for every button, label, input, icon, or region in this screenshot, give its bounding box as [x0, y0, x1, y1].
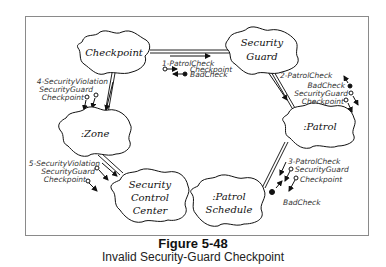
msg3-arg3: BadCheck [283, 198, 321, 207]
link-checkpoint-guard [150, 50, 235, 53]
msg1-arg2: BadCheck [190, 70, 228, 79]
label-zone: :Zone [81, 128, 110, 139]
message-3: 3-PatrolCheck SecurityGuard Checkpoint B… [283, 157, 349, 207]
msg3-arg2: Checkpoint [300, 175, 343, 184]
object-patrol: :Patrol [283, 103, 356, 148]
figure-number: Figure 5-48 [0, 236, 386, 251]
object-checkpoint: Checkpoint [77, 31, 149, 74]
figure-caption: Invalid Security-Guard Checkpoint [0, 250, 386, 264]
collaboration-diagram: Checkpoint Security Guard :Zone :Patrol … [0, 0, 386, 267]
object-zone: :Zone [59, 107, 131, 156]
label-patrol-schedule-1: :Patrol [212, 191, 246, 202]
msg2-arg3: Checkpoint [302, 97, 345, 106]
msg4-arg2: Checkpoint [42, 93, 85, 102]
label-scc-1: Security [129, 179, 172, 190]
label-scc-2: Control [131, 192, 169, 203]
link-zone-scc [98, 153, 123, 175]
object-patrol-schedule: :Patrol Schedule [191, 175, 265, 226]
msg5-arg2: Checkpoint [44, 175, 87, 184]
label-checkpoint: Checkpoint [85, 47, 144, 58]
msg2-name: 2-PatrolCheck [280, 71, 333, 80]
label-scc-3: Center [133, 205, 169, 216]
label-patrol: :Patrol [303, 121, 337, 132]
msg3-arg1: SecurityGuard [295, 165, 349, 174]
label-patrol-schedule-2: Schedule [206, 204, 253, 215]
label-security-guard-1: Security [241, 37, 284, 48]
object-security-guard: Security Guard [226, 27, 299, 74]
message-4: 4-SecurityViolation SecurityGuard Checkp… [37, 77, 108, 102]
label-security-guard-2: Guard [246, 51, 278, 62]
object-security-control-center: Security Control Center [111, 169, 189, 222]
